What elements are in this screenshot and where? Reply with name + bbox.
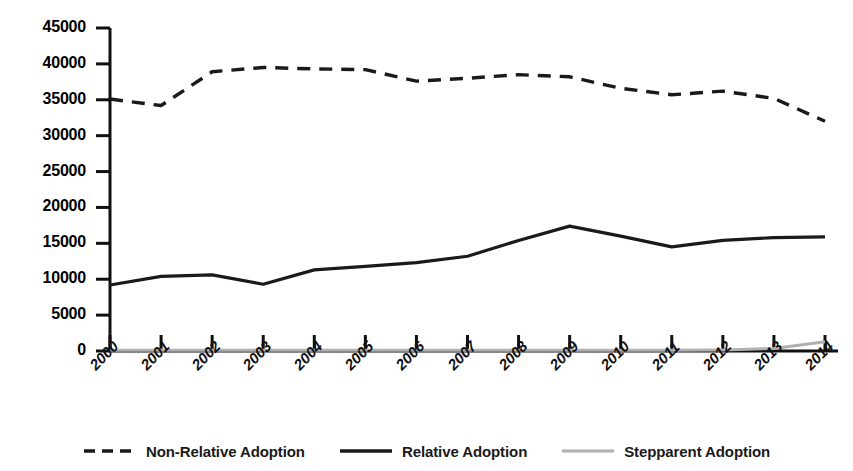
y-axis-tick-label: 10000 [2, 269, 86, 287]
y-axis-tick-label: 20000 [2, 197, 86, 215]
legend-item-stepparent-adoption[interactable]: Stepparent Adoption [561, 443, 770, 460]
y-axis-tick-label: 5000 [2, 305, 86, 323]
gray-line-swatch [561, 445, 615, 457]
y-axis-tick-label: 45000 [2, 18, 86, 36]
solid-line-swatch [339, 445, 393, 457]
series-line-relative-adoption [110, 226, 825, 285]
legend-label: Relative Adoption [402, 443, 527, 460]
y-axis-tick-label: 35000 [2, 90, 86, 108]
line-chart: 0500010000150002000025000300003500040000… [0, 0, 853, 471]
chart-plot-area [0, 0, 853, 471]
y-axis-tick-label: 0 [2, 341, 86, 359]
y-axis-tick-label: 25000 [2, 162, 86, 180]
dashed-line-swatch [83, 445, 137, 457]
chart-legend: Non-Relative AdoptionRelative AdoptionSt… [0, 436, 853, 466]
y-axis-tick-label: 15000 [2, 233, 86, 251]
y-axis-ticks [96, 28, 110, 351]
data-series-layer [110, 67, 825, 350]
y-axis-tick-label: 40000 [2, 54, 86, 72]
y-axis-tick-label: 30000 [2, 126, 86, 144]
legend-label: Stepparent Adoption [624, 443, 770, 460]
legend-item-non-relative-adoption[interactable]: Non-Relative Adoption [83, 443, 305, 460]
legend-item-relative-adoption[interactable]: Relative Adoption [339, 443, 527, 460]
series-line-non-relative-adoption [110, 67, 825, 121]
legend-label: Non-Relative Adoption [146, 443, 305, 460]
